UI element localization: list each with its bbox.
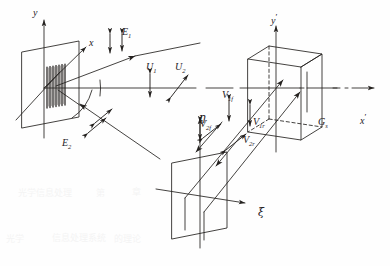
diagram-canvas <box>0 0 390 266</box>
ray-bundle-lower-extension <box>185 198 204 240</box>
field-label-e2-sub: 2 <box>68 143 71 150</box>
axis-label-x-prime: x′ <box>360 113 366 126</box>
vector-label-v1f-sub: 1f <box>228 95 233 102</box>
polarization-arrows-e2 <box>88 109 112 133</box>
vector-label-v1f: V1f <box>222 90 233 103</box>
vector-label-v2r: V2r <box>243 135 255 148</box>
field-label-e1-sub: 1 <box>128 32 131 39</box>
vector-label-v1r-sub: 1r <box>259 122 265 129</box>
vector-label-v2r-sub: 2r <box>249 140 255 147</box>
beam-label-u2: U2 <box>175 62 185 75</box>
axis-xi <box>156 189 245 203</box>
beam-u2-ray <box>80 104 160 159</box>
beam-label-u1: U1 <box>146 62 156 75</box>
polarization-arrow-u2 <box>171 75 188 97</box>
component-label-gs: Gs <box>318 117 328 130</box>
angle-arc-lower <box>72 90 92 118</box>
prime-mark-icon: ′ <box>275 12 277 22</box>
axis-label-x: x <box>89 38 93 48</box>
component-label-gs-sub: s <box>325 122 328 129</box>
vector-label-v2f: V2f <box>200 119 211 132</box>
axis-label-y-prime: y′ <box>271 13 277 26</box>
axis-label-xi: ξ <box>258 207 264 218</box>
vector-label-v1r: V1r <box>253 117 265 130</box>
optical-diagram-figure: y x y′ x′ η ξ E1 E2 U1 U2 V1f V2f V1r V2… <box>0 0 390 266</box>
field-label-e2: E2 <box>62 138 71 151</box>
vector-label-v2f-sub: 2f <box>206 124 211 131</box>
beam-label-u1-sub: 1 <box>153 67 156 74</box>
diagram-linework <box>16 20 374 248</box>
axis-label-y: y <box>33 8 37 18</box>
beam-label-u2-sub: 2 <box>182 67 185 74</box>
field-label-e1: E1 <box>122 27 131 40</box>
polarization-arrows-e1 <box>110 34 122 53</box>
prime-mark-icon: ′ <box>364 112 366 122</box>
